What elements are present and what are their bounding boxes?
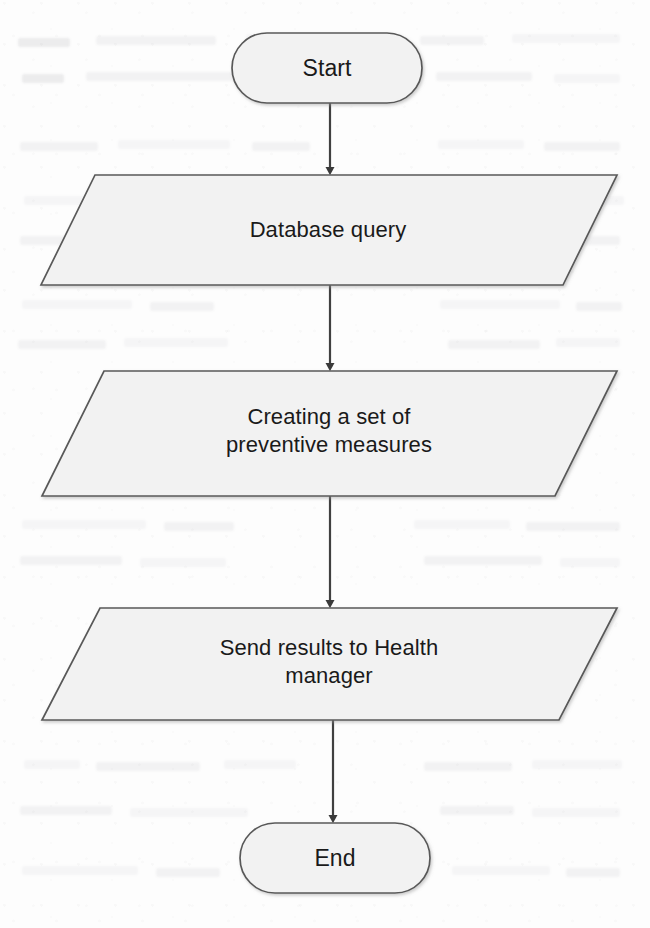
flowchart-page: Start Database query Creating a set of p… [0,0,650,928]
preventive-measures-parallelogram-shape [42,371,617,496]
node-send-results[interactable] [42,608,617,720]
node-end[interactable] [240,823,430,893]
node-database-query[interactable] [41,175,617,285]
send-results-parallelogram-shape [42,608,617,720]
node-start[interactable] [232,33,422,103]
database-query-parallelogram-shape [41,175,617,285]
end-terminator-shape [240,823,430,893]
node-preventive-measures[interactable] [42,371,617,496]
flowchart-canvas [0,0,650,928]
start-terminator-shape [232,33,422,103]
